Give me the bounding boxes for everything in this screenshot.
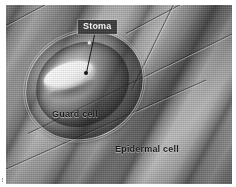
stoma-anchor-dot (84, 71, 88, 75)
photo-credit: ••• (0, 156, 6, 182)
micrograph-photo: Stoma Guard cell Epidermal cell (6, 5, 232, 184)
label-stoma: Stoma (78, 20, 117, 34)
label-guard-cell: Guard cell (52, 109, 98, 120)
label-epidermal-cell: Epidermal cell (115, 144, 179, 155)
figure-page: Stoma Guard cell Epidermal cell ••• (0, 0, 236, 187)
